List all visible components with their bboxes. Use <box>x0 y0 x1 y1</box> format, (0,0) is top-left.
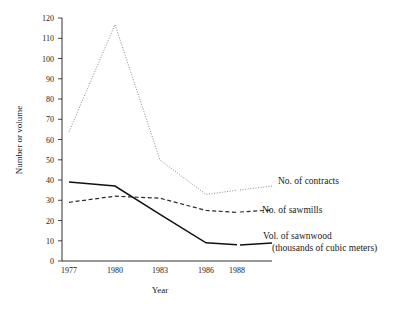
series-label-vol-of-sawnwood: Vol. of sawnwood <box>263 231 332 241</box>
chart-figure: 0 10 20 30 40 50 60 70 80 90 100 110 120… <box>0 0 394 311</box>
y-tick-label-90: 90 <box>46 75 54 84</box>
x-tick-label-1977: 1977 <box>61 266 77 275</box>
y-tick-label-10: 10 <box>46 237 54 246</box>
y-tick-label-110: 110 <box>42 34 54 43</box>
y-tick-label-30: 30 <box>46 196 54 205</box>
x-tick-label-1983: 1983 <box>152 266 168 275</box>
series-label-vol-of-sawnwood-units: (thousands of cubic meters) <box>272 243 377 254</box>
legend-leader-contracts <box>240 186 272 190</box>
line-chart: 0 10 20 30 40 50 60 70 80 90 100 110 120… <box>0 0 394 311</box>
y-tick-label-80: 80 <box>46 95 54 104</box>
x-tick-label-1986: 1986 <box>198 266 214 275</box>
x-tick-label-1980: 1980 <box>107 266 123 275</box>
series-line-no-of-contracts <box>69 25 237 195</box>
y-axis-title: Number or volume <box>14 106 24 174</box>
y-tick-label-0: 0 <box>50 257 54 266</box>
legend-leader-sawnwood <box>240 243 272 245</box>
y-tick-label-60: 60 <box>46 136 54 145</box>
y-tick-label-120: 120 <box>42 14 54 23</box>
x-axis-title: Year <box>152 285 169 295</box>
y-tick-label-70: 70 <box>46 115 54 124</box>
y-tick-label-100: 100 <box>42 55 54 64</box>
y-axis-ticks <box>58 18 62 261</box>
series-line-vol-of-sawnwood <box>69 182 237 245</box>
y-tick-label-50: 50 <box>46 156 54 165</box>
series-label-no-of-contracts: No. of contracts <box>278 176 339 186</box>
y-tick-label-40: 40 <box>46 176 54 185</box>
series-label-no-of-sawmills: No. of sawmills <box>262 205 323 215</box>
y-tick-label-20: 20 <box>46 217 54 226</box>
x-tick-label-1988: 1988 <box>229 266 245 275</box>
